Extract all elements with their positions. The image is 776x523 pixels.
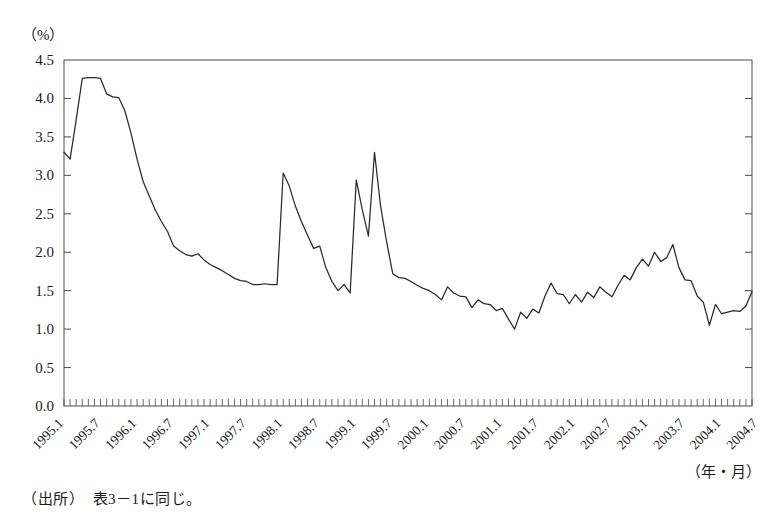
x-tick-label: 2003.7	[650, 415, 687, 452]
x-tick-label: 2003.1	[614, 416, 651, 453]
source-note: （出所） 表3－1に同じ。	[22, 487, 202, 508]
x-tick-label: 2002.1	[541, 416, 578, 453]
x-tick-label: 2000.7	[431, 415, 468, 452]
x-axis-ticks	[64, 399, 752, 406]
x-tick-label: 1998.1	[248, 416, 285, 453]
y-tick-label: 1.0	[35, 321, 54, 337]
x-tick-label: 2001.1	[468, 416, 505, 453]
figure-container: 0.00.51.01.52.02.53.03.54.04.5 （%） 1995.…	[0, 0, 776, 523]
x-tick-label: 1995.1	[29, 416, 66, 453]
y-tick-label: 1.5	[35, 283, 54, 299]
y-tick-label: 0.0	[35, 398, 54, 414]
y-tick-label: 2.0	[35, 244, 54, 260]
y-tick-label: 3.0	[35, 167, 54, 183]
y-tick-label: 3.5	[35, 129, 54, 145]
x-tick-label: 2000.1	[395, 416, 432, 453]
x-tick-label: 1998.7	[285, 415, 322, 452]
x-tick-label: 1996.1	[102, 416, 139, 453]
x-tick-label: 1997.1	[175, 416, 212, 453]
x-tick-label: 1999.7	[358, 415, 395, 452]
y-axis-tick-labels: 0.00.51.01.52.02.53.03.54.04.5	[35, 52, 54, 414]
y-tick-label: 4.5	[35, 52, 54, 68]
x-tick-label: 2004.7	[723, 415, 760, 452]
x-tick-label: 1995.7	[66, 415, 103, 452]
y-tick-label: 4.0	[35, 90, 54, 106]
plot-frame	[64, 60, 752, 406]
x-tick-label: 2004.1	[687, 416, 724, 453]
x-tick-label: 1997.7	[212, 415, 249, 452]
x-tick-label: 1999.1	[321, 416, 358, 453]
data-series-line	[64, 78, 752, 329]
x-axis-tick-labels: 1995.11995.71996.11996.71997.11997.71998…	[29, 415, 760, 452]
x-tick-label: 2001.7	[504, 415, 541, 452]
x-tick-label: 2002.7	[577, 415, 614, 452]
y-axis-unit-label: （%）	[22, 27, 65, 43]
x-tick-label: 1996.7	[139, 415, 176, 452]
y-tick-label: 0.5	[35, 360, 54, 376]
y-axis-ticks	[64, 98, 752, 367]
x-axis-unit-label: （年・月）	[686, 464, 761, 480]
y-tick-label: 2.5	[35, 206, 54, 222]
unemployment-rate-line-chart: 0.00.51.01.52.02.53.03.54.04.5 （%） 1995.…	[0, 0, 776, 523]
